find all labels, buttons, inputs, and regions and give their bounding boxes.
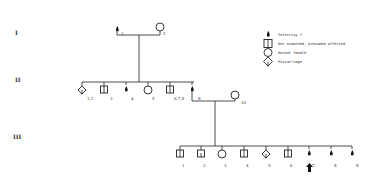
pedigree-diagram: I II III 1 2 1,2 3 4 5 6,7,8 9 (0, 0, 377, 177)
affected-male-icon (116, 26, 119, 31)
gen3-individual-7-proband: 7 (306, 150, 315, 172)
svg-text:5: 5 (152, 96, 155, 101)
gen3-individual-3: 3 (218, 150, 227, 168)
svg-text:1,2: 1,2 (87, 96, 94, 101)
svg-text:5: 5 (268, 163, 271, 168)
svg-text:10: 10 (241, 100, 247, 105)
normal-female-icon (231, 91, 239, 99)
gen2-individual-5: 5 (144, 86, 155, 101)
legend-item-presumed-affected: Not examined, presumed affected (264, 40, 345, 48)
generation-label-3: III (13, 133, 22, 140)
gen2-individual-1-2: 1,2 (78, 86, 94, 101)
gen2-individual-3: 3 (101, 86, 114, 101)
svg-text:4: 4 (246, 163, 249, 168)
gen3-individual-1: 1 (177, 150, 185, 168)
svg-text:1: 1 (182, 163, 185, 168)
svg-text:9: 9 (198, 96, 201, 101)
gen3-individual-2: 2 (198, 150, 207, 168)
gen3-individual-6: 6 (285, 150, 294, 168)
gen3-individual-5: 5 (262, 150, 271, 168)
svg-text:Miscarriage: Miscarriage (278, 60, 302, 64)
svg-text:9: 9 (356, 163, 359, 168)
svg-text:7: 7 (312, 163, 315, 168)
gen3-individual-8: 8 (330, 150, 337, 168)
gen3-individual-4: 4 (241, 150, 250, 168)
svg-text:Selectisy Y: Selectisy Y (278, 33, 303, 37)
svg-text:2: 2 (163, 31, 166, 36)
generation-label-1: I (15, 29, 18, 36)
generation-label-2: II (15, 76, 21, 83)
svg-text:6: 6 (290, 163, 293, 168)
gen2-individual-4: 4 (125, 86, 134, 101)
affected-male-icon (308, 150, 311, 155)
svg-text:8: 8 (334, 163, 337, 168)
svg-text:2: 2 (203, 163, 206, 168)
gen2-individual-9: 9 (191, 86, 201, 101)
svg-text:Normal female: Normal female (278, 51, 306, 55)
gen1-individual-2: 2 (156, 23, 166, 36)
affected-male-icon (330, 150, 333, 155)
normal-female-icon (144, 86, 152, 94)
legend-item-miscarriage: Miscarriage (264, 57, 302, 67)
legend-item-affected: Selectisy Y (267, 31, 303, 37)
gen3-individual-9: 9 (351, 150, 359, 168)
svg-text:3: 3 (110, 96, 113, 101)
affected-male-icon (267, 31, 270, 37)
svg-text:4: 4 (131, 96, 134, 101)
normal-female-icon (264, 49, 272, 57)
svg-text:6,7,8: 6,7,8 (174, 96, 185, 101)
gen2-individual-10: 10 (231, 91, 247, 105)
affected-male-icon (191, 86, 194, 91)
gen2-individual-6-7-8: 6,7,8 (167, 86, 185, 101)
affected-male-icon (125, 86, 128, 91)
normal-female-icon (218, 150, 226, 158)
svg-text:Not examined, presumed affecte: Not examined, presumed affected (278, 42, 345, 46)
legend: Selectisy Y Not examined, presumed affec… (264, 31, 346, 67)
normal-female-icon (156, 23, 164, 31)
legend-item-normal-female: Normal female (264, 49, 306, 57)
affected-male-icon (351, 150, 354, 155)
svg-text:3: 3 (224, 163, 227, 168)
